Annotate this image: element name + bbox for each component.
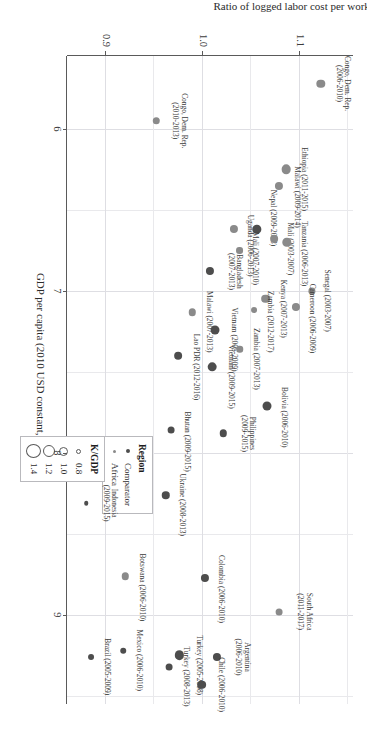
gridline-horizontal	[202, 56, 203, 704]
scatter-point[interactable]	[275, 182, 283, 190]
point-label: Chile (2006-2010)	[217, 657, 225, 712]
gridline-horizontal	[153, 56, 154, 704]
point-label: Mali (2007-2010)	[251, 232, 259, 285]
y-axis-tick-label: 1.1	[294, 14, 305, 47]
point-label: Ukraine (2008-2013)	[178, 473, 186, 536]
gridline-vertical	[67, 534, 353, 535]
point-label: Vietnam (2009-2015)	[227, 345, 235, 409]
y-axis-tick	[299, 51, 300, 55]
legend-region-title: Region	[137, 444, 147, 506]
x-axis-tick-label: 6	[52, 126, 63, 131]
gridline-horizontal	[105, 56, 106, 704]
legend-label: 1.2	[44, 463, 54, 474]
scatter-point[interactable]	[188, 308, 196, 316]
scatter-point[interactable]	[211, 325, 220, 334]
legend-label: 1.4	[29, 463, 39, 474]
gridline-vertical	[67, 210, 353, 211]
y-axis-tick-label: 1.0	[197, 14, 208, 47]
scatter-point[interactable]	[292, 303, 300, 311]
y-axis-title: Ratio of logged labor cost per worker to…	[210, 0, 367, 12]
comparator-dot-icon	[126, 444, 130, 458]
point-label: Colombia (2006-2010)	[217, 555, 225, 623]
africa-dot-icon	[114, 444, 117, 458]
size-circle-icon	[77, 444, 82, 458]
y-axis-tick-label: 0.9	[100, 14, 111, 47]
point-label: Mexico (2006-2010)	[135, 630, 143, 691]
point-label: Malawi (2009-2014)	[293, 166, 301, 227]
scatter-point[interactable]	[219, 430, 227, 438]
point-label: Lao PDR (2012-2016)	[192, 334, 200, 401]
legend-size-item[interactable]: 1.2	[42, 444, 56, 474]
point-label: Zambia (2012-2017)	[266, 291, 274, 352]
scatter-chart: GDP per capita (2010 USD constant, log) …	[0, 0, 367, 729]
point-label: Botswana (2006-2010)	[138, 553, 146, 621]
scatter-point[interactable]	[88, 654, 94, 660]
point-label: Bangladesh (2007-2013)	[226, 253, 243, 290]
legend-size-item[interactable]: 1.0	[57, 444, 71, 474]
x-axis-tick-label: 7	[52, 288, 63, 293]
legend-size-item[interactable]: 0.8	[72, 444, 86, 474]
point-label: Congo, Dem. Rep. (2010-2013)	[171, 93, 188, 148]
x-axis-title: GDP per capita (2010 USD constant, log)	[35, 0, 47, 729]
x-axis-tick	[63, 615, 67, 616]
point-label: Brazil (2005-2009)	[103, 638, 111, 695]
scatter-point[interactable]	[317, 79, 326, 88]
gridline-horizontal	[347, 56, 348, 704]
x-axis-tick	[63, 291, 67, 292]
scatter-point[interactable]	[206, 268, 214, 276]
scatter-point[interactable]	[262, 401, 271, 410]
point-label: Bhutan (2009-2015)	[183, 411, 191, 471]
x-axis-tick	[63, 453, 67, 454]
legend-label: 0.8	[74, 463, 84, 474]
point-label: Bolivia (2006-2010)	[280, 387, 288, 448]
y-axis-tick	[202, 51, 203, 55]
point-label: Turkey (2008-2013)	[182, 647, 190, 707]
x-axis-tick-label: 8	[52, 450, 63, 455]
point-label: Senegal (2003-2007)	[323, 270, 331, 332]
gridline-vertical	[67, 372, 353, 373]
x-axis-tick-label: 9	[52, 612, 63, 617]
point-label: Malawi (2007-2013)	[205, 291, 213, 352]
scatter-point[interactable]	[283, 238, 292, 247]
legend-label: 1.0	[59, 463, 69, 474]
legend-label: Africa	[110, 463, 120, 486]
y-axis-tick	[105, 51, 106, 55]
gridline-vertical	[67, 696, 353, 697]
legend-size-title: K/GDP	[89, 444, 99, 474]
x-axis-tick	[63, 129, 67, 130]
figure-rotation-wrapper: GDP per capita (2010 USD constant, log) …	[0, 0, 367, 729]
scatter-point[interactable]	[152, 117, 160, 125]
point-label: Philippines (2009-2015)	[239, 415, 256, 452]
x-axis-line	[66, 56, 67, 704]
point-label: Kenya (2007-2013)	[279, 280, 287, 338]
point-label: Indonesia (2009-2015)	[101, 485, 118, 522]
point-label: Argentina (2006-2010)	[234, 639, 251, 676]
legend-label: Comparator	[123, 463, 133, 506]
legend-item-comparator[interactable]: Comparator	[122, 444, 134, 506]
y-axis-line	[67, 55, 353, 56]
point-label: South Africa (2011-2017)	[296, 593, 313, 631]
scatter-point[interactable]	[121, 572, 129, 580]
point-label: Zambia (2007-2013)	[252, 328, 260, 389]
point-label: Congo, Dem. Rep. (2006-2010)	[334, 56, 351, 111]
scatter-point[interactable]	[251, 307, 257, 313]
point-label: Tanzania (2006-2013)	[300, 221, 308, 286]
gridline-vertical	[67, 129, 353, 130]
point-label: Mali (2003-2007)	[286, 222, 294, 275]
scatter-point[interactable]	[230, 225, 238, 233]
legend-size: K/GDP 0.8 1.0 1.2 1.4	[20, 436, 105, 482]
point-label: Cameroon (2006-2009)	[309, 284, 317, 354]
scatter-point[interactable]	[162, 491, 170, 499]
scatter-point[interactable]	[201, 574, 209, 582]
legend-size-item[interactable]: 1.4	[27, 444, 41, 474]
size-circle-icon	[27, 444, 42, 458]
